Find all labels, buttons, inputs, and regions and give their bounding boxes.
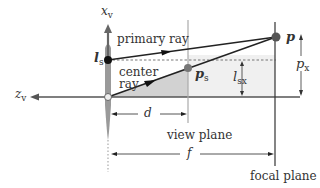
x-axis-label: xv [101, 4, 113, 18]
view-plane-label: view plane [167, 128, 232, 142]
d-arrow-right [181, 112, 187, 116]
f-arrow-right [268, 152, 274, 156]
lsx-label: lsx [233, 69, 247, 84]
ps-label: ps [195, 66, 209, 81]
focal-plane-label: focal plane [250, 169, 317, 183]
diagram-canvas [0, 0, 320, 188]
primary-ray-label: primary ray [117, 32, 189, 46]
d-label: d [144, 106, 152, 120]
z-axis-label: zv [15, 87, 26, 101]
lens-center-point [105, 94, 112, 101]
px-label: px [296, 56, 309, 71]
z-axis-arrowhead [30, 94, 39, 101]
ls-label: ls [94, 50, 104, 65]
px-arrow-bottom [299, 90, 303, 96]
ps-point [184, 64, 192, 72]
thin-lens-diagram: xv zv ls primary ray center ray p ps lsx… [0, 0, 320, 188]
ls-point [104, 56, 112, 64]
center-ray-label: center ray [119, 66, 158, 90]
x-axis-arrowhead [104, 24, 112, 33]
d-arrow-left [111, 112, 117, 116]
P-label: p [286, 29, 295, 44]
P-point [272, 33, 281, 42]
px-arrow-top [299, 34, 303, 40]
f-label: f [187, 146, 191, 160]
f-arrow-left [111, 152, 117, 156]
